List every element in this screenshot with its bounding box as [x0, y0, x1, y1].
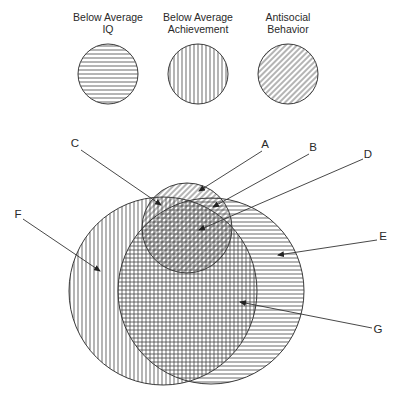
callout-arrow-icon [213, 154, 309, 207]
callout-c: C [71, 137, 161, 205]
legend-swatch-diagonal-hatch [258, 44, 318, 104]
callout-b: B [213, 141, 317, 207]
legend-item-iq: Below AverageIQ [73, 11, 143, 104]
legend-item-achievement: Below AverageAchievement [163, 11, 233, 104]
venn-diagram-figure: Below AverageIQBelow AverageAchievementA… [0, 0, 401, 398]
callout-label-e: E [379, 230, 387, 242]
callout-label-a: A [261, 138, 269, 150]
legend-label-antisocial-line2: Behavior [267, 23, 309, 35]
venn-diagram-svg: Below AverageIQBelow AverageAchievementA… [0, 0, 401, 398]
legend: Below AverageIQBelow AverageAchievementA… [73, 11, 318, 104]
legend-label-iq-line2: IQ [102, 23, 113, 35]
legend-item-antisocial: AntisocialBehavior [258, 11, 318, 104]
callout-label-g: G [374, 323, 383, 335]
legend-label-iq-line1: Below Average [73, 11, 143, 23]
legend-swatch-vertical-hatch [168, 44, 228, 104]
venn-sets [69, 183, 304, 385]
callout-arrow-icon [81, 150, 161, 205]
legend-label-antisocial-line1: Antisocial [266, 11, 311, 23]
legend-swatch-horizontal-hatch [78, 44, 138, 104]
callout-label-c: C [71, 137, 79, 149]
legend-label-achievement-line2: Achievement [168, 23, 229, 35]
callout-label-d: D [364, 148, 372, 160]
callout-label-f: F [14, 208, 21, 220]
callout-label-b: B [309, 141, 317, 153]
callout-a: A [199, 138, 269, 191]
legend-label-achievement-line1: Below Average [163, 11, 233, 23]
